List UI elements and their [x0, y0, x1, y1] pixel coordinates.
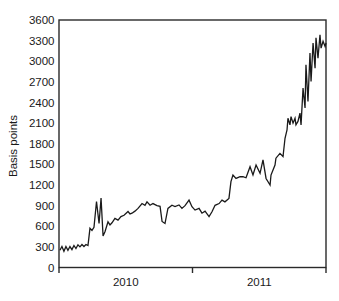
y-axis-title: Basis points [7, 115, 19, 177]
y-tick-label: 2100 [29, 117, 55, 129]
x-axis: 20102011 [59, 268, 326, 288]
line-chart: 0300600900120015001800210024002700300033… [0, 0, 339, 301]
y-tick-label: 3000 [29, 55, 55, 67]
y-tick-label: 0 [48, 262, 54, 274]
y-axis-label: Basis points [7, 115, 19, 177]
y-tick-label: 1500 [29, 158, 55, 170]
y-axis: 0300600900120015001800210024002700300033… [29, 14, 55, 274]
basis-points-chart: 0300600900120015001800210024002700300033… [0, 0, 339, 301]
y-tick-label: 900 [35, 200, 54, 212]
y-tick-label: 300 [35, 241, 54, 253]
y-tick-label: 2700 [29, 76, 55, 88]
plot-frame [59, 20, 326, 268]
y-tick-label: 2400 [29, 97, 55, 109]
y-tick-label: 1200 [29, 179, 55, 191]
x-tick-label: 2010 [113, 276, 139, 288]
y-tick-label: 1800 [29, 138, 55, 150]
plot-border [59, 20, 326, 268]
y-tick-label: 3300 [29, 35, 55, 47]
y-tick-label: 600 [35, 220, 54, 232]
series-line [60, 35, 326, 252]
x-tick-label: 2011 [247, 276, 272, 288]
data-line [60, 35, 326, 252]
y-tick-label: 3600 [29, 14, 55, 26]
